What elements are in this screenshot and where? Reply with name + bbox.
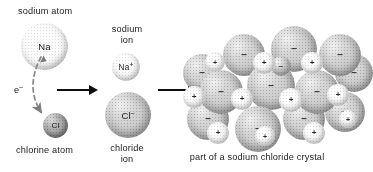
crystal-sodium-ion: + [183, 86, 205, 108]
chloride-ion-sphere: Cl– [105, 92, 151, 138]
crystal-sodium-ion: + [301, 52, 323, 74]
crystal-sodium-ion: + [207, 122, 229, 144]
plus-charge-glyph: + [207, 129, 229, 137]
crystal-caption: part of a sodium chloride crystal [190, 152, 325, 163]
chloride-ion-element: Cl [121, 110, 130, 121]
sodium-chloride-crystal: –––––––––––––+++++++++++ [183, 26, 355, 146]
plus-charge-glyph: + [205, 59, 225, 66]
crystal-sodium-ion: + [205, 52, 225, 72]
plus-charge-glyph: + [303, 129, 325, 137]
chlorine-atom-label: chlorine atom [16, 145, 73, 156]
sodium-ion-charge: + [129, 61, 133, 68]
electron-charge: – [19, 83, 23, 90]
chloride-ion-symbol: Cl– [105, 110, 151, 121]
plus-charge-glyph: + [231, 95, 253, 103]
chloride-ion-label-line2: ion [121, 154, 134, 165]
crystal-sodium-ion: + [255, 126, 275, 146]
chloride-ion-label-line1: chloride [110, 143, 143, 154]
plus-charge-glyph: + [183, 93, 205, 101]
plus-charge-glyph: + [301, 59, 323, 67]
sodium-atom-symbol: Na [21, 42, 68, 52]
plus-charge-glyph: + [255, 133, 275, 140]
plus-charge-glyph: + [279, 96, 303, 104]
crystal-chloride-ion: – [319, 34, 361, 76]
crystal-sodium-ion: + [253, 52, 275, 74]
sodium-ion-element: Na [119, 63, 130, 72]
crystal-sodium-ion: + [231, 88, 253, 110]
chlorine-atom-symbol: Cl [43, 122, 68, 130]
sodium-atom-label: sodium atom [18, 6, 72, 17]
crystal-sodium-ion: + [279, 88, 303, 112]
crystal-sodium-ion: + [327, 84, 349, 106]
sodium-atom-sphere: Na [21, 23, 68, 70]
crystal-sodium-ion: + [339, 110, 357, 128]
electron-label: e– [14, 82, 23, 96]
plus-charge-glyph: + [327, 91, 349, 99]
sodium-ion-symbol: Na+ [112, 62, 140, 73]
chloride-ion-charge: – [131, 109, 135, 116]
plus-charge-glyph: + [253, 59, 275, 67]
crystal-sodium-ion: + [303, 122, 325, 144]
minus-charge-glyph: – [319, 50, 361, 60]
plus-charge-glyph: + [339, 116, 357, 123]
chlorine-atom-sphere: Cl [43, 113, 68, 138]
sodium-ion-sphere: Na+ [112, 53, 140, 81]
sodium-ion-label-line1: sodium [112, 24, 143, 35]
sodium-ion-label-line2: ion [121, 35, 134, 46]
